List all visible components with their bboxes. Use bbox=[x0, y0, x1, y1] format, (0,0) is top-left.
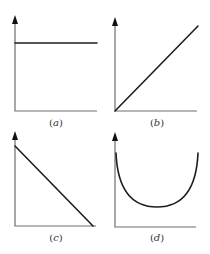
panel-c-decreasing-line bbox=[15, 146, 93, 226]
four-panel-graph-diagram: (a) (b) (c) (d) bbox=[0, 0, 210, 254]
panel-c-label: (c) bbox=[49, 232, 63, 243]
panel-d-label: (d) bbox=[150, 232, 164, 243]
panel-d: (d) bbox=[112, 132, 198, 243]
panel-c-y-arrow-icon bbox=[12, 131, 18, 140]
panel-b-y-arrow-icon bbox=[112, 17, 118, 26]
panel-b-label: (b) bbox=[150, 117, 164, 128]
panel-a-y-arrow-icon bbox=[12, 15, 18, 24]
panel-d-axes bbox=[115, 139, 196, 227]
panel-a: (a) bbox=[12, 15, 97, 128]
panel-d-u-curve bbox=[116, 153, 198, 207]
panel-c-axes bbox=[15, 138, 96, 226]
panel-a-axes bbox=[15, 22, 97, 111]
panel-d-y-arrow-icon bbox=[112, 132, 118, 141]
panel-c: (c) bbox=[12, 131, 96, 243]
panel-a-label: (a) bbox=[49, 117, 63, 128]
panel-b-increasing-line bbox=[115, 26, 198, 111]
panel-b: (b) bbox=[112, 17, 198, 128]
